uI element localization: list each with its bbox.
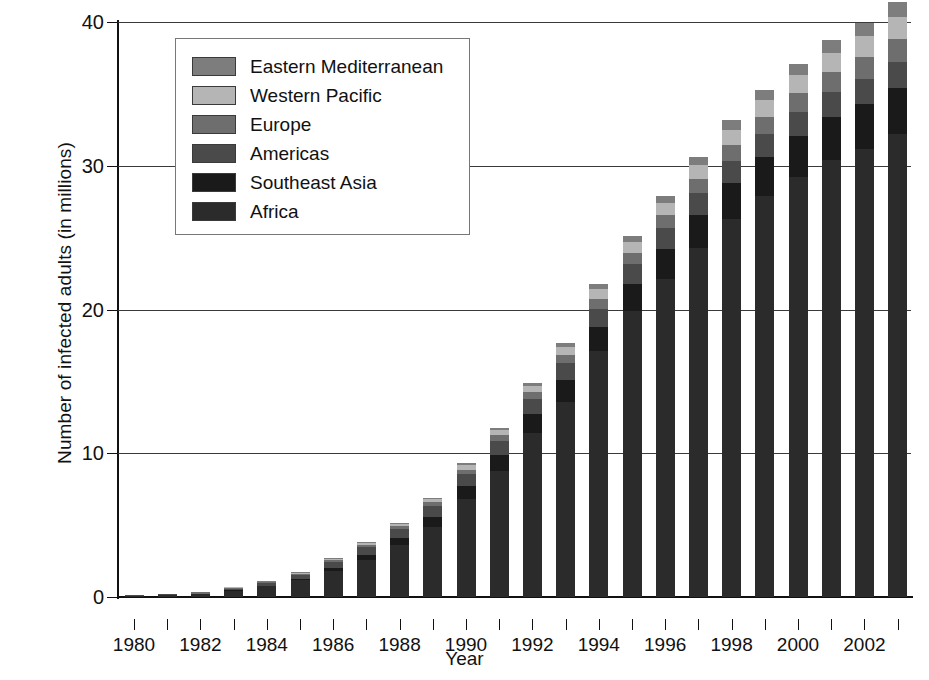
bar-segment-americas: [589, 309, 608, 327]
legend-item-americas: Americas: [192, 139, 469, 168]
bar-segment-southeast-asia: [589, 327, 608, 351]
bar-segment-southeast-asia: [523, 414, 542, 433]
bar-segment-africa: [523, 433, 542, 597]
y-tick: [107, 453, 118, 454]
bar-segment-europe: [656, 215, 675, 228]
bar-segment-southeast-asia: [855, 104, 874, 149]
bar-segment-africa: [457, 499, 476, 597]
x-tick-label: 1984: [246, 634, 288, 656]
bar-segment-americas: [556, 363, 575, 380]
bar-segment-southeast-asia: [888, 88, 907, 134]
x-tick: [300, 619, 301, 630]
bar-segment-africa: [490, 471, 509, 598]
bar-segment-africa: [722, 219, 741, 597]
bar-segment-western-pacific: [888, 17, 907, 39]
legend-swatch-icon: [192, 173, 236, 192]
bar-segment-eastern-mediterranean: [390, 523, 409, 524]
x-tick: [333, 619, 334, 630]
x-tick: [798, 619, 799, 630]
x-tick-label: 1994: [578, 634, 620, 656]
bar-segment-europe: [888, 39, 907, 62]
legend-item-europe: Europe: [192, 110, 469, 139]
bar-segment-americas: [357, 547, 376, 555]
bar-segment-western-pacific: [556, 347, 575, 355]
bar-segment-western-pacific: [689, 165, 708, 179]
bar-segment-americas: [457, 474, 476, 486]
bar-segment-europe: [457, 470, 476, 475]
y-tick-label: 20: [82, 298, 104, 321]
bar-segment-western-pacific: [656, 203, 675, 215]
bar-segment-southeast-asia: [324, 568, 343, 571]
bar-segment-western-pacific: [490, 430, 509, 435]
bar-segment-eastern-mediterranean: [291, 572, 310, 573]
x-tick: [599, 619, 600, 630]
bar-segment-africa: [257, 586, 276, 597]
bar-segment-western-pacific: [855, 36, 874, 57]
legend-label: Eastern Mediterranean: [250, 57, 443, 76]
chart-legend: Eastern MediterraneanWestern PacificEuro…: [175, 38, 470, 235]
bar-segment-americas: [291, 575, 310, 579]
x-tick: [831, 619, 832, 630]
legend-swatch-icon: [192, 115, 236, 134]
bar-segment-europe: [689, 179, 708, 193]
chart-figure: Number of infected adults (in millions) …: [0, 0, 929, 680]
bar-segment-southeast-asia: [556, 380, 575, 402]
legend-swatch-icon: [192, 57, 236, 76]
bar-segment-europe: [822, 72, 841, 92]
bar-segment-africa: [822, 160, 841, 597]
bar-segment-africa: [125, 596, 144, 597]
bar-segment-americas: [789, 112, 808, 136]
bar-segment-americas: [324, 562, 343, 568]
bar-segment-southeast-asia: [291, 579, 310, 580]
bar-segment-southeast-asia: [789, 136, 808, 178]
bar-segment-europe: [191, 592, 210, 593]
bar-segment-americas: [755, 134, 774, 157]
bar-segment-eastern-mediterranean: [589, 284, 608, 289]
x-tick: [898, 619, 899, 630]
bar-segment-americas: [257, 583, 276, 586]
bar-segment-western-pacific: [623, 242, 642, 253]
x-tick: [433, 619, 434, 630]
bar-segment-southeast-asia: [357, 555, 376, 560]
bar-segment-americas: [224, 589, 243, 591]
x-tick-label: 1990: [445, 634, 487, 656]
bar-segment-europe: [390, 526, 409, 529]
legend-label: Western Pacific: [250, 86, 382, 105]
bar-segment-americas: [623, 264, 642, 283]
legend-item-eastern-mediterranean: Eastern Mediterranean: [192, 52, 469, 81]
x-tick: [864, 619, 865, 630]
bar-segment-africa: [589, 351, 608, 597]
x-tick: [765, 619, 766, 630]
x-tick-label: 1996: [644, 634, 686, 656]
y-tick-label: 0: [93, 586, 104, 609]
bar-segment-americas: [722, 161, 741, 183]
legend-item-western-pacific: Western Pacific: [192, 81, 469, 110]
bar-segment-europe: [490, 435, 509, 441]
y-tick-label: 30: [82, 154, 104, 177]
bar-segment-africa: [556, 402, 575, 598]
bar-segment-eastern-mediterranean: [656, 196, 675, 203]
bar-segment-europe: [423, 502, 442, 506]
y-axis-title: Number of infected adults (in millions): [54, 23, 76, 583]
bar-segment-africa: [755, 196, 774, 597]
x-tick-label: 2000: [777, 634, 819, 656]
bar-segment-western-pacific: [755, 100, 774, 117]
bar-segment-europe: [855, 57, 874, 79]
bar-segment-western-pacific: [722, 130, 741, 145]
x-tick: [267, 619, 268, 630]
x-tick: [134, 619, 135, 630]
x-tick: [732, 619, 733, 630]
bar-segment-eastern-mediterranean: [523, 383, 542, 386]
bar-segment-africa: [689, 248, 708, 597]
y-tick-label: 10: [82, 442, 104, 465]
x-tick: [400, 619, 401, 630]
legend-item-southeast-asia: Southeast Asia: [192, 168, 469, 197]
legend-swatch-icon: [192, 144, 236, 163]
legend-label: Europe: [250, 115, 311, 134]
bar-segment-southeast-asia: [822, 117, 841, 160]
bar-segment-eastern-mediterranean: [490, 428, 509, 431]
legend-swatch-icon: [192, 202, 236, 221]
y-tick: [107, 310, 118, 311]
x-tick: [698, 619, 699, 630]
bar-segment-eastern-mediterranean: [324, 558, 343, 559]
